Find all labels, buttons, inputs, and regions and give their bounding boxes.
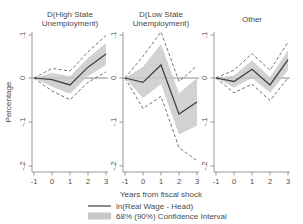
y-axis-title: Percentage xyxy=(4,81,13,122)
panel3-xtick-label-1: -1 xyxy=(213,177,220,186)
legend: ln(Real Wage - Head) 68% (90%) Confidenc… xyxy=(88,202,227,221)
panel3-xtick-label-2: 0 xyxy=(232,177,236,186)
figure-container: Percentage D(High State Unemployment) .1… xyxy=(0,0,303,224)
legend-band-label: 68% (90%) Confidence Interval xyxy=(116,212,227,221)
panel3-xtick-label-3: 1 xyxy=(250,177,254,186)
panel1-ytick-label-2: 0 xyxy=(18,76,27,80)
panel-other: Other .1 0 -.1 -.2 -1 0 1 2 3 xyxy=(200,15,290,186)
panel2-title-line1: D(Low State xyxy=(139,10,184,19)
panel1-xtick-label-1: -1 xyxy=(31,177,38,186)
panel1-ytick-label-1: .1 xyxy=(18,32,27,38)
panel3-xtick-label-4: 2 xyxy=(268,177,272,186)
panel1-title-line2: Unemployment) xyxy=(42,19,99,28)
legend-band-swatch xyxy=(88,213,111,220)
panel2-ytick-label-4: -.2 xyxy=(109,162,118,171)
panel2-title-line2: Unemployment) xyxy=(133,19,190,28)
legend-line-label: ln(Real Wage - Head) xyxy=(116,202,193,211)
panel1-xtick-label-4: 2 xyxy=(86,177,90,186)
chart-svg: Percentage D(High State Unemployment) .1… xyxy=(0,0,303,224)
panel2-xtick-label-5: 3 xyxy=(195,177,199,186)
panel2-xtick-label-2: 0 xyxy=(141,177,145,186)
panel1-ytick-label-4: -.2 xyxy=(18,162,27,171)
panel2-ytick-label-2: 0 xyxy=(109,76,118,80)
panel2-xtick-label-4: 2 xyxy=(177,177,181,186)
panel3-title-line1: Other xyxy=(242,15,262,24)
panel3-xtick-label-5: 3 xyxy=(286,177,290,186)
panel2-ci68-band xyxy=(125,44,197,134)
panel2-ytick-label-3: -.1 xyxy=(109,118,118,127)
panel3-ytick-label-4: -.2 xyxy=(200,162,209,171)
panel1-xtick-label-3: 1 xyxy=(68,177,72,186)
panel3-ytick-label-3: -.1 xyxy=(200,118,209,127)
panel1-ytick-label-3: -.1 xyxy=(18,118,27,127)
x-axis-title: Years from fiscal shock xyxy=(120,190,203,199)
panel3-ytick-label-1: .1 xyxy=(200,32,209,38)
panel-low-state-unemployment: D(Low State Unemployment) .1 0 -.1 -.2 -… xyxy=(109,10,199,186)
panel2-xtick-label-3: 1 xyxy=(159,177,163,186)
panel1-xtick-label-2: 0 xyxy=(50,177,54,186)
panel2-ytick-label-1: .1 xyxy=(109,32,118,38)
panel3-ytick-label-2: 0 xyxy=(200,76,209,80)
panel-high-state-unemployment: D(High State Unemployment) .1 0 -.1 -.2 … xyxy=(18,10,108,186)
panel1-xtick-label-5: 3 xyxy=(104,177,108,186)
panel2-xtick-label-1: -1 xyxy=(122,177,129,186)
panel1-title-line1: D(High State xyxy=(47,10,93,19)
